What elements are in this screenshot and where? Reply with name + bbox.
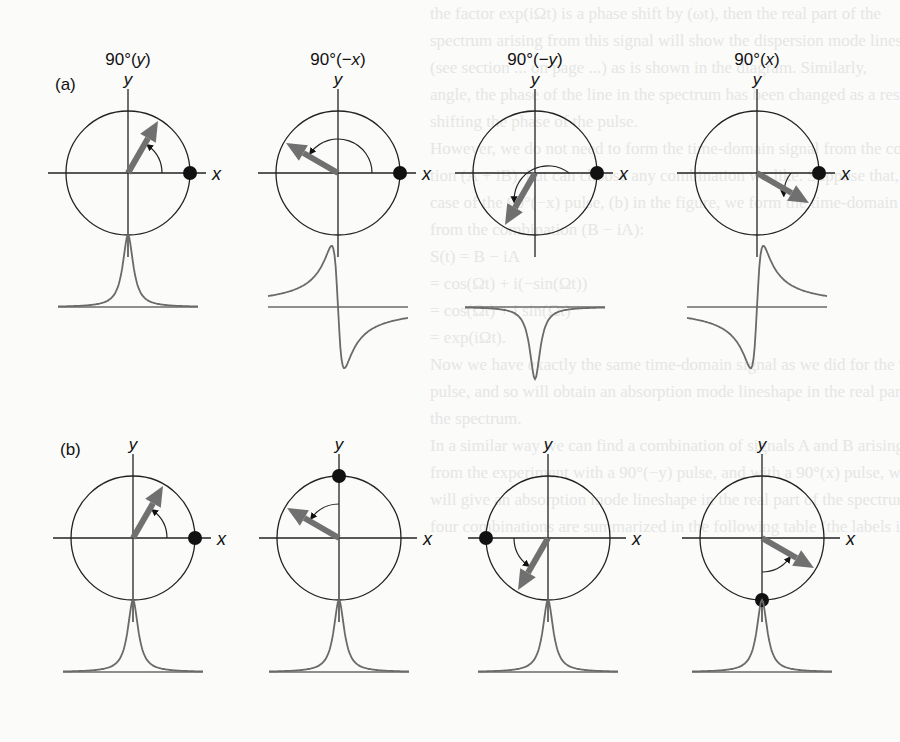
receiver-reference-dot xyxy=(393,166,407,180)
magnetization-vector xyxy=(303,153,338,173)
row_a-panel-2: 90°(−x)yx xyxy=(258,50,432,368)
receiver-reference-dot xyxy=(812,166,826,180)
y-axis-label: y xyxy=(530,70,541,89)
rotation-arc-arrow-icon xyxy=(762,559,789,572)
pulse-title: 90°(x) xyxy=(734,50,780,69)
row-b-label: (b) xyxy=(60,440,81,459)
magnetization-vector xyxy=(528,538,548,573)
y-axis-label: y xyxy=(543,435,554,454)
receiver-reference-dot xyxy=(332,469,346,483)
rotation-arc-arrow-icon xyxy=(154,511,167,538)
rotation-arc-arrow-icon xyxy=(311,139,372,173)
x-axis-label: x xyxy=(216,529,227,549)
magnetization-vector xyxy=(128,138,148,173)
rotation-arc-arrow-icon xyxy=(514,538,527,565)
x-axis-label: x xyxy=(422,529,433,549)
pulse-title: 90°(y) xyxy=(105,50,151,69)
x-axis-label: x xyxy=(845,529,856,549)
rotation-arc-arrow-icon xyxy=(149,146,162,173)
y-axis-label: y xyxy=(752,70,763,89)
row_b-panel-1: yx xyxy=(53,435,227,672)
row_b-panel-4: yx xyxy=(682,435,856,672)
y-axis-label: y xyxy=(128,435,139,454)
x-axis-label: x xyxy=(211,164,222,184)
negative-absorption-lineshape xyxy=(465,308,605,379)
magnetization-vector xyxy=(762,538,797,558)
row_a-panel-4: 90°(x)yx xyxy=(677,50,851,368)
pulse-title: 90°(−x) xyxy=(310,50,365,69)
y-axis-label: y xyxy=(123,70,134,89)
receiver-reference-dot xyxy=(183,166,197,180)
y-axis-label: y xyxy=(757,435,768,454)
receiver-reference-dot xyxy=(188,531,202,545)
magnetization-vector xyxy=(133,503,153,538)
receiver-reference-dot xyxy=(590,166,604,180)
row_a-panel-3: 90°(−y)yx xyxy=(455,50,629,379)
magnetization-vector xyxy=(304,518,339,538)
x-axis-label: x xyxy=(618,164,629,184)
x-axis-label: x xyxy=(631,529,642,549)
row_b-panel-3: yx xyxy=(468,435,642,672)
x-axis-label: x xyxy=(421,164,432,184)
magnetization-vector xyxy=(515,173,535,208)
phase-cycling-diagram: (a)(b)90°(y)yx90°(−x)yx90°(−y)yx90°(x)yx… xyxy=(0,0,900,742)
magnetization-vector xyxy=(757,173,792,193)
row_b-panel-2: yx xyxy=(259,435,433,672)
y-axis-label: y xyxy=(334,435,345,454)
pulse-title: 90°(−y) xyxy=(507,50,562,69)
receiver-reference-dot xyxy=(479,531,493,545)
y-axis-label: y xyxy=(333,70,344,89)
x-axis-label: x xyxy=(840,164,851,184)
row-a-label: (a) xyxy=(55,75,76,94)
rotation-arc-arrow-icon xyxy=(312,504,339,517)
